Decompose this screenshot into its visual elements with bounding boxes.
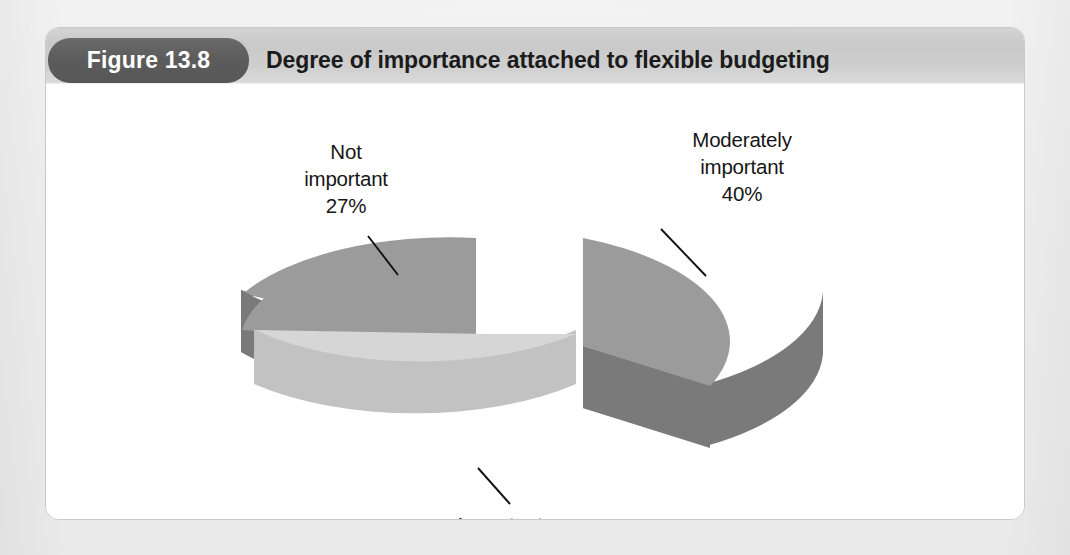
label-not-important-line2: important bbox=[304, 167, 388, 190]
label-important-line1: Important bbox=[458, 513, 543, 520]
label-moderately-important-line1: Moderately bbox=[692, 128, 792, 151]
label-not-important-line1: Not bbox=[330, 140, 362, 163]
figure-number-badge: Figure 13.8 bbox=[48, 38, 249, 83]
label-not-important-value: 27% bbox=[326, 194, 366, 217]
figure-title: Degree of importance attached to flexibl… bbox=[266, 40, 830, 80]
figure-header-band: Figure 13.8 Degree of importance attache… bbox=[46, 28, 1025, 84]
leader-line-important bbox=[478, 468, 510, 504]
pie-slice-moderately-important bbox=[583, 238, 823, 448]
figure-card: Figure 13.8 Degree of importance attache… bbox=[45, 27, 1025, 520]
pie-chart-3d: Not important 27% Moderately important 4… bbox=[46, 84, 1025, 520]
label-moderately-important-value: 40% bbox=[722, 182, 762, 205]
label-not-important: Not important 27% bbox=[304, 140, 388, 217]
label-moderately-important-line2: important bbox=[700, 155, 784, 178]
pie-slice-not-important-top-face bbox=[242, 238, 476, 346]
label-important: Important 33% bbox=[458, 513, 543, 520]
chart-plot-area: Not important 27% Moderately important 4… bbox=[46, 84, 1025, 520]
label-moderately-important: Moderately important 40% bbox=[692, 128, 792, 205]
pie-slice-important bbox=[254, 330, 576, 413]
figure-page-background: Figure 13.8 Degree of importance attache… bbox=[0, 0, 1070, 555]
